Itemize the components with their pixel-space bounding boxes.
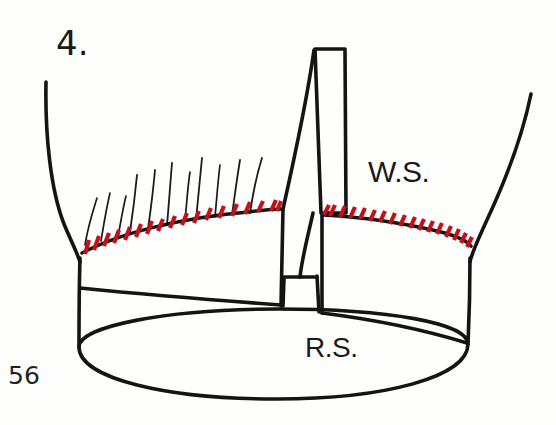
- body-left-side: [79, 258, 80, 347]
- wrong-side-label: W.S.: [368, 157, 429, 187]
- figure-page: 4. W.S. R.S. 56: [0, 0, 556, 425]
- center-stem-right: [317, 276, 319, 312]
- body-right-side: [468, 258, 470, 344]
- step-number-label: 4.: [56, 26, 88, 60]
- knitting-diagram-svg: [0, 0, 556, 425]
- center-stem-left: [283, 278, 284, 306]
- right-side-label: R.S.: [305, 334, 357, 362]
- page-number-label: 56: [8, 363, 40, 388]
